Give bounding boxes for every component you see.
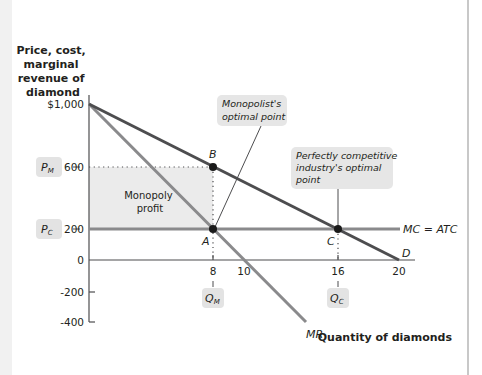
point-a-label: A xyxy=(201,235,210,248)
y-tick-label-m200: -200 xyxy=(60,286,84,298)
demand-curve-label: D xyxy=(402,247,410,260)
monopoly-vs-competition-chart: Price, cost, marginal revenue of diamond… xyxy=(0,0,482,375)
y-tick-label-m400: -400 xyxy=(60,316,84,328)
y-tick-label-600: 600 xyxy=(64,161,84,173)
point-b-label: B xyxy=(209,148,217,161)
y-tick-label-200: 200 xyxy=(64,223,84,235)
x-tick-label-10: 10 xyxy=(237,265,250,277)
point-c xyxy=(334,225,342,233)
x-tick-label-20: 20 xyxy=(392,265,405,277)
monopolist-callout-leader xyxy=(215,126,261,227)
point-b xyxy=(209,163,217,171)
point-a xyxy=(209,225,217,233)
x-axis-title: Quantity of diamonds xyxy=(318,331,453,344)
y-tick-label-1000: $1,000 xyxy=(47,98,84,110)
point-c-label: C xyxy=(327,235,335,248)
y-axis-title: Price, cost, marginal revenue of diamond xyxy=(16,44,89,99)
mc-atc-curve-label: MC = ATC xyxy=(403,223,458,236)
x-tick-label-16: 16 xyxy=(331,265,345,277)
x-tick-label-8: 8 xyxy=(210,265,217,277)
y-tick-label-0: 0 xyxy=(77,254,84,266)
